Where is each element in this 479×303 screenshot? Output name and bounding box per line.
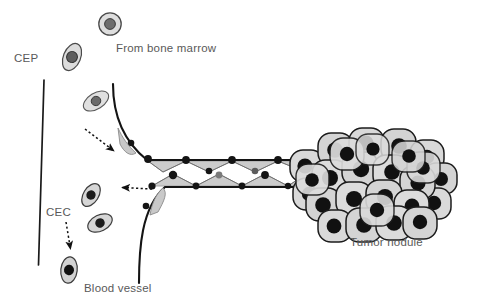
tumor-cell	[356, 134, 389, 165]
cec-cell-lower	[85, 210, 115, 236]
tumor-cell	[296, 164, 329, 195]
cep-cell-left	[59, 41, 86, 74]
blood-vessel	[113, 84, 300, 283]
vessel-wall-upper	[113, 84, 300, 160]
tumor-cell	[392, 141, 425, 172]
label-cep: CEP	[14, 52, 38, 64]
cep-cell-mid	[80, 87, 112, 115]
tumor-cell	[360, 194, 394, 226]
label-blood-vessel: Blood vessel	[84, 282, 152, 294]
tumor-cell	[403, 207, 437, 239]
label-tumor-nodule: Tumor nodule	[350, 236, 423, 248]
arrow-cec-down	[66, 222, 71, 249]
cec-cell-upper	[78, 180, 104, 209]
arrow-cep-to-vessel	[85, 129, 114, 151]
tumor-nodule	[290, 128, 457, 242]
diagram-canvas: CEP From bone marrow CEC Blood vessel Tu…	[0, 0, 479, 303]
cec-cell-bottom	[59, 256, 78, 284]
angiogenesis-figure: CEP From bone marrow CEC Blood vessel Tu…	[0, 0, 479, 303]
label-cec: CEC	[46, 206, 71, 218]
cep-cell-top	[99, 13, 121, 35]
label-from-bone-marrow: From bone marrow	[116, 42, 217, 54]
vertical-divider-line	[39, 80, 45, 265]
vessel-sprout-cells	[118, 128, 165, 215]
arrow-vessel-to-cec	[122, 188, 152, 190]
